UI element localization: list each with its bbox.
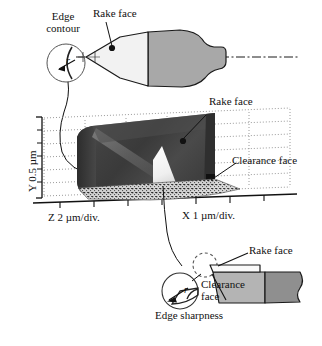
label-rake-face-top: Rake face <box>93 8 137 20</box>
figure-root: Edge contour Rake face r Y 0.5 µm Z 2 µm… <box>0 0 322 346</box>
label-z-axis: Z 2 µm/div. <box>48 212 100 224</box>
surface-plot-group <box>33 108 297 266</box>
label-y-axis: Y 0.5 µm <box>26 150 38 192</box>
label-radius-bottom: r <box>184 284 188 296</box>
sharpness-connector <box>192 274 201 281</box>
rake-face-leader-top <box>106 22 112 46</box>
rake-face-strip-bottom <box>210 265 260 272</box>
label-rake-face-plot: Rake face <box>209 96 253 108</box>
label-radius-top: r <box>66 55 70 67</box>
label-clearance-face-bottom: Clearance face <box>201 278 247 302</box>
tool-body-bottom-dark <box>265 272 303 303</box>
figure-vector <box>0 0 322 346</box>
rake-face-leader-bottom <box>218 253 248 266</box>
label-x-axis: X 1 µm/div. <box>182 210 235 222</box>
label-clearance-face-plot: Clearance face <box>232 155 297 167</box>
label-edge-sharpness: Edge sharpness <box>155 309 225 321</box>
label-rake-face-bottom: Rake face <box>249 245 293 257</box>
label-edge-contour: Edge contour <box>38 11 88 34</box>
tool-body-top <box>148 30 226 87</box>
